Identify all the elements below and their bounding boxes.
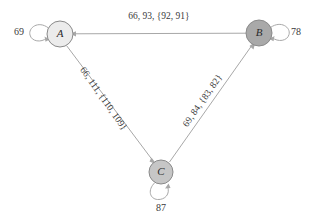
self-loop-c[interactable]: [150, 183, 170, 200]
node-a-label: A: [56, 27, 64, 39]
node-c[interactable]: C: [149, 160, 173, 184]
self-loop-b-label: 78: [291, 26, 301, 37]
edge-labels-layer: 66, 93, {92, 91} 66, 111, {110, 109} 69,…: [78, 11, 224, 132]
node-a[interactable]: A: [47, 21, 73, 47]
loop-labels-layer: 69 78 87: [14, 26, 301, 213]
self-loop-c-arrowhead: [165, 184, 171, 189]
node-c-label: C: [157, 165, 165, 177]
nodes-layer: A B C: [47, 20, 272, 184]
edge-a-c-label: 66, 111, {110, 109}: [78, 65, 129, 132]
self-loop-c-path: [150, 183, 168, 200]
edge-b-c[interactable]: [170, 42, 256, 163]
self-loop-a-label: 69: [14, 26, 24, 37]
edges-layer: [67, 31, 256, 164]
edge-a-b-label: 66, 93, {92, 91}: [128, 11, 189, 21]
graph-diagram: A B C 66, 93, {92, 91} 66, 111, {110, 10…: [0, 0, 317, 223]
edge-a-b-line: [73, 33, 246, 34]
node-b[interactable]: B: [246, 20, 272, 46]
graph-canvas: A B C 66, 93, {92, 91} 66, 111, {110, 10…: [0, 0, 317, 223]
edge-b-c-label: 69, 84, {83, 82}: [181, 73, 224, 129]
edge-b-c-line: [170, 45, 253, 163]
self-loop-c-label: 87: [156, 202, 166, 213]
edge-a-b[interactable]: [70, 31, 246, 36]
node-b-label: B: [256, 26, 263, 38]
